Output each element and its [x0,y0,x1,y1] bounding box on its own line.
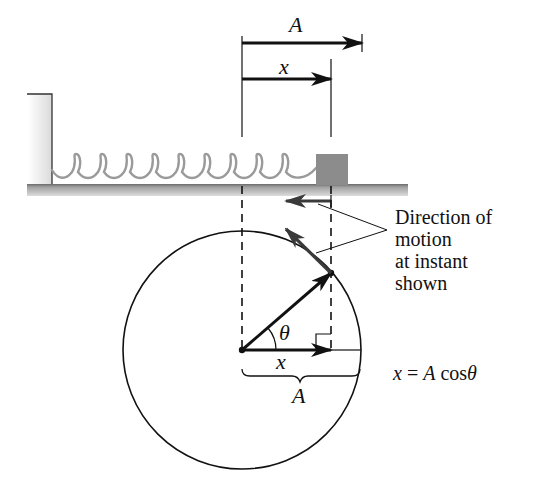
spring [52,154,316,178]
note-line-3: at instant [395,250,492,272]
amplitude-label-top: A [289,12,302,38]
wall [27,94,52,185]
note-line-1: Direction of [395,206,492,228]
position-equation: x = A cosθ [393,362,477,385]
equation-equals: = [402,362,423,384]
theta-label: θ [279,320,290,346]
displacement-label-circle: x [276,349,286,375]
center-point [239,347,245,353]
note-line-4: shown [395,272,492,294]
displacement-label-top: x [279,54,289,80]
amplitude-label-brace: A [292,383,305,409]
equation-amplitude: A [423,362,435,384]
equation-cos: cos [435,362,467,384]
leader-line-top [318,204,387,230]
direction-of-motion-note: Direction of motion at instant shown [395,206,492,294]
leader-line-bottom [316,230,387,253]
equation-theta: θ [467,362,477,384]
theta-arc [268,328,276,350]
equation-lhs: x [393,362,402,384]
note-line-2: motion [395,228,492,250]
mass-block [316,154,348,185]
tangent-velocity-arrow [286,229,331,273]
right-angle-marker [316,334,331,350]
amplitude-brace [242,369,360,382]
floor [27,184,408,196]
